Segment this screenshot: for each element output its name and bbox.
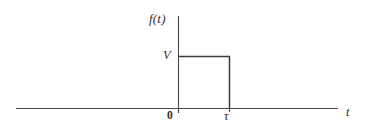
origin-label: 0 bbox=[167, 110, 173, 122]
y-axis-label: f(t) bbox=[149, 12, 166, 25]
x-axis-label: t bbox=[346, 106, 349, 119]
amplitude-label: V bbox=[163, 49, 171, 62]
pulse-waveform bbox=[179, 57, 230, 109]
plot-canvas bbox=[0, 0, 366, 132]
pulse-plot-figure: f(t) V 0 τ t bbox=[0, 0, 366, 132]
pulse-width-label: τ bbox=[224, 110, 228, 123]
